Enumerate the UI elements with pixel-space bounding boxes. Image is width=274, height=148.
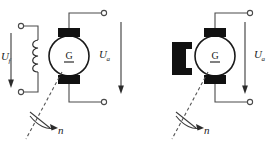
armature-voltage-subscript-left: a: [107, 55, 111, 63]
terminal-armature-bottom-right[interactable]: [247, 99, 252, 104]
terminal-armature-top-right[interactable]: [247, 10, 252, 15]
pole-shoe-bottom-left: [58, 75, 80, 84]
diagram-separately-excited: U f G U a: [1, 10, 124, 139]
armature-voltage-subscript-right: a: [262, 55, 266, 63]
field-bottom-wire: [21, 72, 38, 92]
figure-canvas: U f G U a: [0, 0, 274, 148]
terminal-field-bottom[interactable]: [18, 89, 23, 94]
shaft-dashed-line-right: [172, 72, 208, 139]
speed-label-left: n: [58, 124, 64, 136]
terminal-armature-top-left[interactable]: [101, 10, 106, 15]
armature-bottom-wire-left: [69, 84, 104, 102]
permanent-magnet-icon: [172, 42, 192, 75]
diagram-permanent-magnet: G U a n: [172, 10, 266, 139]
circuit-diagram-svg: U f G U a: [0, 0, 274, 148]
machine-symbol-letter-right: G: [211, 50, 218, 61]
armature-voltage-arrow-right: [242, 22, 248, 94]
field-coil-icon: [33, 40, 38, 72]
armature-voltage-arrow-left: [118, 22, 124, 94]
pole-shoe-bottom-right: [204, 75, 226, 84]
armature-top-wire-left: [69, 13, 104, 28]
machine-symbol-letter-left: G: [65, 50, 72, 61]
terminal-armature-bottom-left[interactable]: [101, 99, 106, 104]
pole-shoe-top-left: [58, 28, 80, 37]
terminal-field-top[interactable]: [18, 23, 23, 28]
pole-shoe-top-right: [204, 28, 226, 37]
field-top-wire: [21, 26, 38, 40]
shaft-dashed-line-left: [26, 72, 62, 139]
speed-label-right: n: [204, 124, 210, 136]
